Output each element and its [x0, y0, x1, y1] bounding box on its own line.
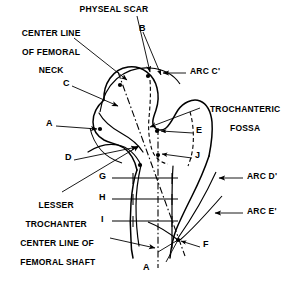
label-center-line-femoral-neck: CENTER LINE OF FEMORAL NECK [6, 20, 86, 84]
label-point-d: D [65, 153, 72, 163]
leader-d [74, 147, 137, 160]
arc-c-prime-curve [100, 68, 180, 112]
center-line-femoral-neck-line1: CENTER LINE [22, 28, 81, 38]
dot-J [156, 153, 160, 157]
dot-A [98, 127, 102, 131]
label-point-e: E [196, 126, 202, 136]
center-line-femoral-neck-line2: OF FEMORAL [22, 47, 80, 57]
leader-lesser-trochanter [62, 146, 139, 192]
leader-a-top [56, 126, 97, 129]
label-point-i: I [101, 215, 104, 225]
leader-j [162, 154, 192, 158]
center-line-femoral-shaft-line2: FEMORAL SHAFT [20, 257, 95, 267]
label-point-h: H [99, 193, 106, 203]
leader-trochanteric-fossa [150, 108, 200, 127]
label-point-j: J [195, 151, 200, 161]
femur-diagram: PHYSEAL SCAR CENTER LINE OF FEMORAL NECK… [0, 0, 286, 282]
label-point-a-top: A [46, 119, 53, 129]
label-arc-c-prime: ARC C' [190, 67, 220, 76]
leader-center-line-femoral-shaft [110, 238, 155, 248]
label-point-b: B [139, 24, 146, 34]
trochanteric-fossa-line1: TROCHANTERIC [210, 104, 280, 114]
label-point-f: F [203, 240, 209, 250]
femoral-neck-inferior-outline [93, 100, 137, 170]
leader-c [72, 86, 118, 106]
label-point-c: C [63, 79, 70, 89]
arc-d-prime-curve [178, 172, 216, 238]
center-line-femoral-shaft-line1: CENTER LINE OF [20, 238, 94, 248]
dot-C [118, 83, 122, 87]
label-trochanteric-fossa: TROCHANTERIC FOSSA [196, 96, 284, 142]
trochanteric-fossa-line2: FOSSA [230, 123, 260, 133]
lesser-trochanter-line1: LESSER [39, 200, 74, 210]
leader-f [181, 241, 200, 247]
leader-e [161, 131, 193, 133]
label-point-g: G [99, 172, 106, 182]
label-physeal-scar: PHYSEAL SCAR [66, 5, 162, 14]
dot-B [146, 74, 150, 78]
arc-e-prime-curve [180, 196, 222, 240]
center-line-femoral-neck-line3: NECK [39, 65, 64, 75]
label-center-line-femoral-shaft: CENTER LINE OF FEMORAL SHAFT [10, 230, 114, 276]
medial-cortex-shaft [136, 165, 141, 246]
lesser-trochanter-line2: TROCHANTER [25, 219, 87, 229]
label-arc-e-prime: ARC E' [247, 207, 277, 216]
dot-E [155, 129, 159, 133]
dot-D [138, 163, 142, 167]
label-point-a-bottom: A [143, 263, 150, 273]
femoral-neck-center-line [118, 72, 185, 256]
label-arc-d-prime: ARC D' [247, 172, 277, 181]
